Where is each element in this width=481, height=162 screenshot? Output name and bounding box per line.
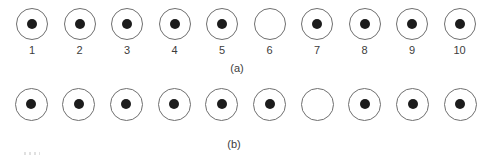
- filled-dot: [27, 19, 37, 29]
- circle-a-8: [349, 8, 381, 40]
- circle-number-3: 3: [124, 44, 130, 56]
- circle-b-9: [396, 88, 429, 121]
- circle-b-3: [110, 88, 143, 121]
- figure-canvas: 12345678910 (a) (b): [0, 0, 481, 162]
- circle-b-10: [444, 88, 477, 121]
- circle-a-2: [64, 8, 96, 40]
- caption-a: (a): [230, 62, 243, 75]
- filled-dot: [217, 99, 227, 109]
- caption-b: (b): [227, 138, 240, 151]
- circle-a-1: [16, 8, 48, 40]
- circle-b-6: [253, 88, 286, 121]
- circle-number-9: 9: [409, 44, 415, 56]
- circle-b-8: [348, 88, 381, 121]
- circle-number-4: 4: [171, 44, 177, 56]
- filled-dot: [265, 99, 275, 109]
- circle-number-5: 5: [219, 44, 225, 56]
- circle-a-4: [159, 8, 191, 40]
- circle-b-7-empty: [301, 88, 334, 121]
- scan-artifact: [24, 152, 40, 155]
- circle-number-10: 10: [453, 44, 465, 56]
- circle-a-9: [396, 8, 428, 40]
- filled-dot: [169, 99, 179, 109]
- circle-a-10: [444, 8, 476, 40]
- circle-b-4: [158, 88, 191, 121]
- filled-dot: [74, 99, 84, 109]
- circle-number-7: 7: [314, 44, 320, 56]
- filled-dot: [75, 19, 85, 29]
- circle-number-1: 1: [29, 44, 35, 56]
- circle-a-7: [301, 8, 333, 40]
- circle-number-6: 6: [266, 44, 272, 56]
- filled-dot: [122, 19, 132, 29]
- filled-dot: [360, 99, 370, 109]
- circle-a-6-empty: [254, 8, 286, 40]
- circle-b-5: [205, 88, 238, 121]
- filled-dot: [312, 19, 322, 29]
- filled-dot: [407, 19, 417, 29]
- circle-number-8: 8: [361, 44, 367, 56]
- circle-b-2: [62, 88, 95, 121]
- circle-a-5: [206, 8, 238, 40]
- filled-dot: [121, 99, 131, 109]
- filled-dot: [455, 19, 465, 29]
- circle-a-3: [111, 8, 143, 40]
- circle-number-2: 2: [76, 44, 82, 56]
- filled-dot: [408, 99, 418, 109]
- filled-dot: [26, 99, 36, 109]
- filled-dot: [170, 19, 180, 29]
- circle-b-1: [15, 88, 48, 121]
- filled-dot: [455, 99, 465, 109]
- filled-dot: [217, 19, 227, 29]
- filled-dot: [360, 19, 370, 29]
